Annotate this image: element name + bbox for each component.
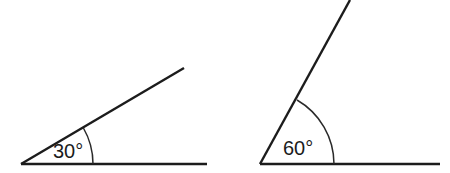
angle-label-60: 60° bbox=[283, 137, 313, 159]
angle-figure-60: 60° bbox=[260, 0, 440, 164]
angle-figure-30: 30° bbox=[21, 68, 207, 164]
slanted-ray-30 bbox=[21, 68, 184, 164]
angles-figure: 30° 60° bbox=[0, 0, 450, 173]
angle-label-30: 30° bbox=[53, 140, 83, 162]
angle-arc-30 bbox=[83, 128, 93, 164]
